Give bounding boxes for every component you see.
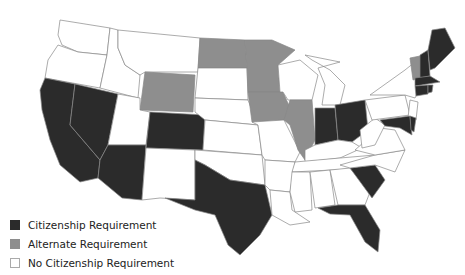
legend-item-citizenship: Citizenship Requirement [10,215,174,234]
state-CT [415,85,428,96]
legend-label: Citizenship Requirement [28,219,156,231]
swatch-alternate [10,239,20,249]
state-ND [198,38,247,68]
state-NM [142,148,195,200]
state-IA [248,92,290,122]
state-FL [318,205,380,252]
legend-item-alternate: Alternate Requirement [10,234,174,253]
state-RI [428,85,433,93]
state-ME [428,28,455,70]
state-WY [140,72,195,112]
state-PA [365,95,410,120]
state-MS [290,172,312,212]
state-DE [410,116,416,132]
legend-label: No Citizenship Requirement [28,257,174,269]
legend-label: Alternate Requirement [28,238,147,250]
state-CO [146,112,205,150]
swatch-citizenship [10,220,20,230]
state-WI [278,60,318,100]
state-MT [118,30,200,75]
legend-item-none: No Citizenship Requirement [10,253,174,272]
state-IN [315,108,338,145]
swatch-none [10,258,20,268]
state-KS [203,120,262,155]
state-MA [415,76,440,86]
state-SD [195,68,248,100]
map-legend: Citizenship Requirement Alternate Requir… [10,215,174,272]
state-AZ [98,145,146,200]
